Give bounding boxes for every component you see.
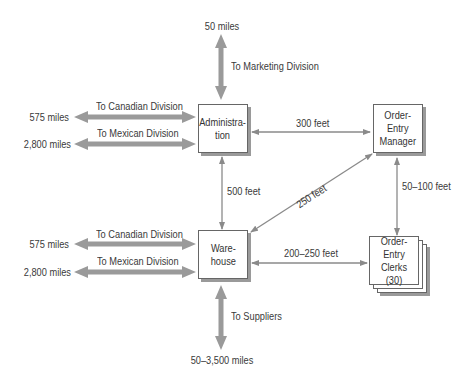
- admin-mexican-arrow: [74, 138, 196, 150]
- node-label: Order-Entry: [373, 235, 415, 261]
- thick-arrows: [74, 34, 227, 350]
- marketing-dest-label: To Marketing Division: [231, 60, 319, 72]
- order-entry-manager-node: Order-EntryManager: [373, 104, 423, 153]
- manager-clerks-distance-label: 50–100 feet: [402, 180, 451, 192]
- warehouse-clerks-distance-label: 200–250 feet: [284, 247, 338, 259]
- node-label: Order-: [380, 109, 416, 122]
- wh-mexican-arrow: [74, 266, 196, 278]
- warehouse-node: Ware-house: [198, 230, 248, 279]
- admin-warehouse-distance-label: 500 feet: [227, 185, 260, 197]
- admin-canadian-distance-label: 575 miles: [29, 111, 69, 123]
- admin-manager-distance-label: 300 feet: [296, 117, 329, 129]
- node-label: (30): [373, 274, 415, 287]
- node-label: Entry: [380, 122, 416, 135]
- wh-canadian-dest-label: To Canadian Division: [96, 228, 183, 240]
- wh-mexican-dest-label: To Mexican Division: [97, 255, 179, 267]
- wh-canadian-distance-label: 575 miles: [29, 238, 69, 250]
- node-label: Manager: [380, 135, 416, 148]
- node-label: Clerks: [373, 261, 415, 274]
- node-label: house: [210, 255, 235, 268]
- suppliers-arrow: [215, 285, 227, 350]
- admin-mexican-distance-label: 2,800 miles: [24, 138, 71, 150]
- admin-canadian-dest-label: To Canadian Division: [96, 100, 183, 112]
- distance-diagram: Administra-tion Order-EntryManager Ware-…: [0, 0, 473, 383]
- wh-mexican-distance-label: 2,800 miles: [24, 266, 71, 278]
- node-label: Administra-: [200, 116, 247, 129]
- admin-mexican-dest-label: To Mexican Division: [97, 127, 179, 139]
- administration-node: Administra-tion: [198, 104, 248, 153]
- marketing-arrow: [215, 34, 227, 100]
- node-label: tion: [200, 129, 247, 142]
- order-entry-clerks-node: Order-EntryClerks(30): [369, 236, 419, 285]
- marketing-distance-label: 50 miles: [205, 20, 239, 32]
- suppliers-distance-label: 50–3,500 miles: [191, 354, 254, 366]
- suppliers-dest-label: To Suppliers: [231, 310, 282, 322]
- admin-canadian-arrow: [74, 111, 196, 123]
- node-label: Ware-: [210, 242, 235, 255]
